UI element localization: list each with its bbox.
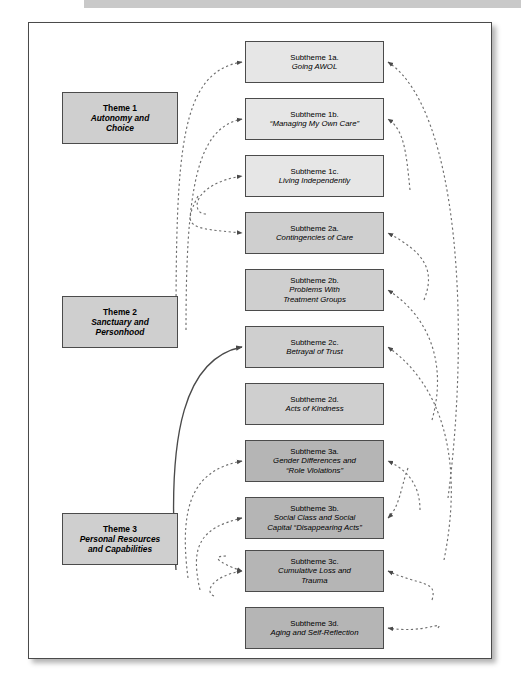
subtheme-box-2d[interactable]: Subtheme 2d. Acts of Kindness bbox=[245, 383, 384, 425]
subtheme-3c-title: Subtheme 3c. bbox=[290, 557, 338, 567]
subtheme-box-3d[interactable]: Subtheme 3d. Aging and Self-Reflection bbox=[245, 607, 384, 649]
subtheme-2a-title: Subtheme 2a. bbox=[290, 224, 339, 234]
subtheme-2a-desc-line-1: Contingencies of Care bbox=[276, 233, 353, 243]
theme-1-subtitle-line-1: Autonomy and bbox=[91, 113, 150, 123]
subtheme-2d-desc-line-1: Acts of Kindness bbox=[285, 404, 343, 414]
theme-1-subtitle-line-2: Choice bbox=[106, 123, 134, 133]
theme-2-title: Theme 2 bbox=[103, 307, 137, 317]
page-top-band bbox=[84, 0, 521, 8]
subtheme-3b-desc-line-2: Capital “Disappearing Acts” bbox=[267, 523, 362, 533]
subtheme-2c-desc-line-1: Betrayal of Trust bbox=[286, 347, 343, 357]
subtheme-box-1a[interactable]: Subtheme 1a. Going AWOL bbox=[245, 41, 384, 83]
subtheme-3a-title: Subtheme 3a. bbox=[290, 447, 339, 457]
subtheme-1a-title: Subtheme 1a. bbox=[290, 53, 339, 63]
subtheme-1c-title: Subtheme 1c. bbox=[290, 167, 338, 177]
subtheme-3c-desc-line-2: Trauma bbox=[301, 576, 327, 586]
subtheme-3c-desc-line-1: Cumulative Loss and bbox=[278, 566, 351, 576]
theme-3-subtitle-line-1: Personal Resources bbox=[80, 534, 161, 544]
theme-2-subtitle-line-2: Personhood bbox=[96, 327, 145, 337]
subtheme-box-3a[interactable]: Subtheme 3a. Gender Differences and “Rol… bbox=[245, 440, 384, 482]
subtheme-box-1c[interactable]: Subtheme 1c. Living Independently bbox=[245, 155, 384, 197]
subtheme-2c-title: Subtheme 2c. bbox=[290, 338, 338, 348]
subtheme-box-3c[interactable]: Subtheme 3c. Cumulative Loss and Trauma bbox=[245, 550, 384, 592]
subtheme-3a-desc-line-2: “Role Violations” bbox=[286, 466, 343, 476]
subtheme-1b-title: Subtheme 1b. bbox=[290, 110, 339, 120]
subtheme-1b-desc-line-1: “Managing My Own Care” bbox=[270, 119, 359, 129]
theme-3-title: Theme 3 bbox=[103, 524, 137, 534]
subtheme-2b-desc-line-2: Treatment Groups bbox=[283, 295, 346, 305]
subtheme-3d-title: Subtheme 3d. bbox=[290, 619, 339, 629]
subtheme-3a-desc-line-1: Gender Differences and bbox=[273, 456, 356, 466]
subtheme-3b-desc-line-1: Social Class and Social bbox=[274, 513, 355, 523]
theme-box-theme-1[interactable]: Theme 1 Autonomy and Choice bbox=[62, 92, 178, 144]
subtheme-box-1b[interactable]: Subtheme 1b. “Managing My Own Care” bbox=[245, 98, 384, 140]
subtheme-2b-title: Subtheme 2b. bbox=[290, 276, 339, 286]
subtheme-box-2b[interactable]: Subtheme 2b. Problems With Treatment Gro… bbox=[245, 269, 384, 311]
subtheme-1c-desc-line-1: Living Independently bbox=[279, 176, 351, 186]
theme-3-subtitle-line-2: and Capabilities bbox=[88, 544, 152, 554]
theme-2-subtitle-line-1: Sanctuary and bbox=[91, 317, 149, 327]
subtheme-3b-title: Subtheme 3b. bbox=[290, 504, 339, 514]
subtheme-1a-desc-line-1: Going AWOL bbox=[292, 62, 338, 72]
subtheme-box-3b[interactable]: Subtheme 3b. Social Class and Social Cap… bbox=[245, 497, 384, 539]
theme-box-theme-2[interactable]: Theme 2 Sanctuary and Personhood bbox=[62, 296, 178, 348]
subtheme-2d-title: Subtheme 2d. bbox=[290, 395, 339, 405]
theme-1-title: Theme 1 bbox=[103, 103, 137, 113]
subtheme-3d-desc-line-1: Aging and Self-Reflection bbox=[271, 628, 359, 638]
theme-box-theme-3[interactable]: Theme 3 Personal Resources and Capabilit… bbox=[62, 513, 178, 565]
subtheme-box-2c[interactable]: Subtheme 2c. Betrayal of Trust bbox=[245, 326, 384, 368]
subtheme-2b-desc-line-1: Problems With bbox=[289, 285, 340, 295]
subtheme-box-2a[interactable]: Subtheme 2a. Contingencies of Care bbox=[245, 212, 384, 254]
